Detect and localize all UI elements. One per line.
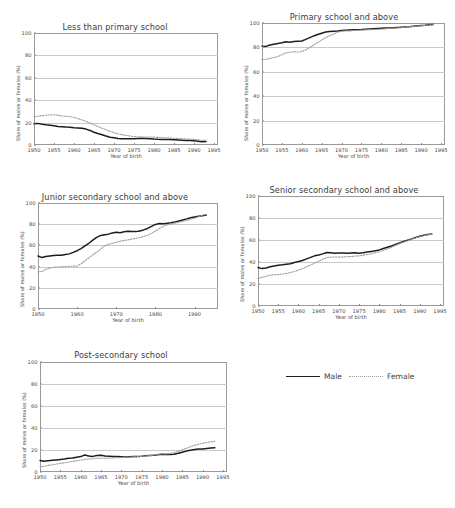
- y-axis-label: Share of males or females (%): [19, 231, 25, 307]
- x-tick-label: 1950: [31, 311, 44, 317]
- y-tick-label: 20: [249, 281, 256, 287]
- x-tick-mark: [319, 304, 320, 306]
- x-tick-mark: [381, 143, 382, 145]
- x-tick-label: 1955: [272, 308, 285, 314]
- legend-item-male: Male: [286, 372, 342, 381]
- legend-label-female: Female: [387, 372, 414, 381]
- series-layer: [262, 23, 445, 145]
- y-tick-label: 60: [29, 242, 36, 248]
- y-tick-mark: [34, 77, 36, 78]
- y-tick-mark: [38, 266, 40, 267]
- x-tick-mark: [322, 143, 323, 145]
- x-tick-mark: [298, 304, 299, 306]
- y-axis-label: Share of males or females (%): [21, 392, 27, 468]
- y-tick-mark: [262, 23, 264, 24]
- y-tick-label: 100: [26, 200, 36, 206]
- chart-panel-junior-secondary: Junior secondary school and above 020406…: [6, 192, 224, 332]
- x-tick-label: 1970: [110, 311, 123, 317]
- series-line-male: [262, 24, 433, 46]
- series-layer: [38, 203, 218, 309]
- y-tick-mark: [38, 203, 40, 204]
- x-tick-label: 1990: [187, 147, 200, 153]
- x-tick-mark: [379, 304, 380, 306]
- y-axis-label: Share of males or females (%): [239, 226, 245, 302]
- x-tick-mark: [342, 143, 343, 145]
- y-tick-mark: [262, 96, 264, 97]
- x-tick-mark: [54, 143, 55, 145]
- x-tick-label: 1990: [415, 147, 428, 153]
- y-tick-label: 100: [246, 193, 256, 199]
- x-tick-mark: [162, 470, 163, 472]
- x-tick-label: 1950: [251, 308, 264, 314]
- chart-title: Post-secondary school: [6, 350, 236, 360]
- y-tick-mark: [34, 122, 36, 123]
- chart-panel-post-secondary: Post-secondary school 020406080100195019…: [6, 350, 236, 500]
- y-tick-mark: [40, 384, 42, 385]
- x-tick-label: 1965: [315, 147, 328, 153]
- y-tick-mark: [262, 71, 264, 72]
- y-tick-label: 40: [249, 259, 256, 265]
- x-tick-mark: [258, 304, 259, 306]
- x-tick-label: 1950: [33, 474, 46, 480]
- x-tick-label: 1975: [355, 147, 368, 153]
- x-tick-mark: [74, 143, 75, 145]
- x-tick-label: 1975: [135, 474, 148, 480]
- chart-title: Primary school and above: [236, 12, 452, 22]
- x-tick-label: 1980: [155, 474, 168, 480]
- series-layer: [40, 362, 227, 472]
- y-tick-label: 100: [22, 30, 32, 36]
- x-tick-mark: [77, 307, 78, 309]
- x-tick-mark: [174, 143, 175, 145]
- x-tick-label: 1950: [27, 147, 40, 153]
- y-tick-label: 60: [31, 403, 38, 409]
- chart-panel-senior-secondary: Senior secondary school and above 020406…: [236, 185, 452, 330]
- x-tick-label: 1955: [275, 147, 288, 153]
- y-tick-mark: [38, 224, 40, 225]
- y-tick-label: 40: [25, 97, 32, 103]
- plot-area: 0204060801001950195519601965197019751980…: [262, 23, 445, 145]
- figure-panel-grid: Less than primary school 020406080100195…: [0, 0, 455, 508]
- x-tick-mark: [101, 470, 102, 472]
- x-tick-mark: [440, 304, 441, 306]
- y-tick-mark: [262, 120, 264, 121]
- plot-area: 0204060801001950195519601965197019751980…: [34, 33, 218, 145]
- y-axis-label: Share of males or females (%): [15, 65, 21, 141]
- x-tick-mark: [302, 143, 303, 145]
- x-tick-label: 1985: [176, 474, 189, 480]
- plot-area: 0204060801001950195519601965197019751980…: [40, 362, 227, 472]
- series-line-female: [38, 214, 206, 272]
- x-tick-mark: [359, 304, 360, 306]
- chart-title: Junior secondary school and above: [6, 192, 224, 202]
- y-tick-mark: [40, 362, 42, 363]
- x-tick-mark: [401, 143, 402, 145]
- y-tick-mark: [34, 100, 36, 101]
- x-tick-mark: [223, 470, 224, 472]
- chart-panel-primary-and-above: Primary school and above 020406080100195…: [236, 12, 452, 170]
- x-tick-label: 1975: [127, 147, 140, 153]
- x-tick-label: 1985: [395, 147, 408, 153]
- x-tick-mark: [195, 307, 196, 309]
- y-tick-mark: [258, 196, 260, 197]
- x-tick-label: 1995: [207, 147, 220, 153]
- x-tick-mark: [361, 143, 362, 145]
- x-tick-mark: [60, 470, 61, 472]
- x-tick-label: 1985: [167, 147, 180, 153]
- x-tick-mark: [134, 143, 135, 145]
- x-tick-label: 1965: [94, 474, 107, 480]
- legend: Male Female: [286, 372, 414, 381]
- x-tick-mark: [441, 143, 442, 145]
- x-tick-mark: [400, 304, 401, 306]
- x-tick-label: 1995: [434, 147, 447, 153]
- plot-area: 0204060801001950195519601965197019751980…: [258, 196, 444, 306]
- legend-line-male-icon: [286, 376, 320, 377]
- x-tick-mark: [155, 307, 156, 309]
- chart-title: Less than primary school: [6, 22, 224, 32]
- y-tick-label: 80: [249, 215, 256, 221]
- y-tick-label: 100: [250, 20, 260, 26]
- x-tick-label: 1990: [188, 311, 201, 317]
- y-tick-mark: [262, 47, 264, 48]
- x-tick-label: 1960: [71, 311, 84, 317]
- y-tick-label: 80: [253, 44, 260, 50]
- series-line-female: [258, 234, 432, 278]
- legend-label-male: Male: [324, 372, 342, 381]
